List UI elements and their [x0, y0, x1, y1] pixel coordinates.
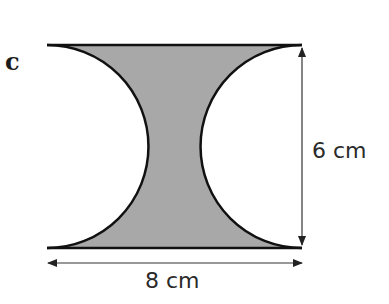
width-label: 8 cm	[145, 268, 200, 293]
part-label: c	[5, 47, 20, 76]
shaded-region	[47, 45, 302, 248]
shape-diagram: c 6 cm 8 cm	[0, 0, 389, 304]
height-label: 6 cm	[312, 138, 367, 163]
